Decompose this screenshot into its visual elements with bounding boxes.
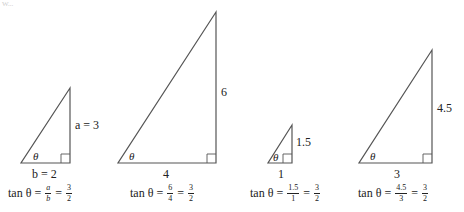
- fraction-4b: 32: [422, 184, 428, 203]
- triangle-2: [118, 12, 216, 163]
- opposite-label-1: a = 3: [75, 119, 99, 131]
- triangle-3: [268, 125, 292, 163]
- fraction-3a: 1.51: [287, 184, 299, 203]
- formula-1: tan θ = ab = 32: [8, 184, 73, 203]
- adjacent-label-2: 4: [163, 168, 169, 180]
- fraction-3b: 32: [314, 184, 320, 203]
- fraction-1a: ab: [45, 184, 51, 203]
- fraction-4a: 4.53: [395, 184, 407, 203]
- angle-label-2: θ: [129, 151, 134, 162]
- triangle-1: [21, 88, 70, 163]
- fraction-1b: 32: [66, 184, 72, 203]
- fraction-2b: 32: [188, 184, 194, 203]
- adjacent-label-1: b = 2: [32, 168, 57, 180]
- angle-label-4: θ: [370, 151, 375, 162]
- triangle-4: [359, 50, 432, 163]
- formula-3: tan θ = 1.51 = 32: [250, 184, 321, 203]
- formula-2: tan θ = 64 = 32: [130, 184, 195, 203]
- fraction-2a: 64: [167, 184, 173, 203]
- opposite-label-4: 4.5: [437, 102, 452, 114]
- formula-4: tan θ = 4.53 = 32: [358, 184, 429, 203]
- opposite-label-3: 1.5: [296, 136, 311, 148]
- adjacent-label-3: 1: [278, 168, 284, 180]
- adjacent-label-4: 3: [394, 168, 400, 180]
- opposite-label-2: 6: [221, 86, 227, 98]
- angle-label-3: θ: [273, 152, 278, 163]
- angle-label-1: θ: [33, 151, 38, 162]
